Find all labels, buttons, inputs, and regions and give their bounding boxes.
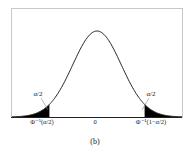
- figure-caption: (b): [90, 137, 100, 146]
- tick-label-left: Φ⁻¹(α/2): [30, 118, 54, 126]
- tick-label-right: Φ⁻¹(1−α/2): [136, 118, 166, 126]
- density-curve: [12, 31, 182, 117]
- right-tail-label: α/2: [146, 90, 156, 98]
- left-tail-label: α/2: [33, 90, 43, 98]
- tick-label-center: 0: [93, 118, 96, 125]
- plot-frame: [12, 9, 183, 118]
- normal-distribution-figure: α/2 α/2 Φ⁻¹(α/2) 0 Φ⁻¹(1−α/2) (b): [0, 0, 187, 156]
